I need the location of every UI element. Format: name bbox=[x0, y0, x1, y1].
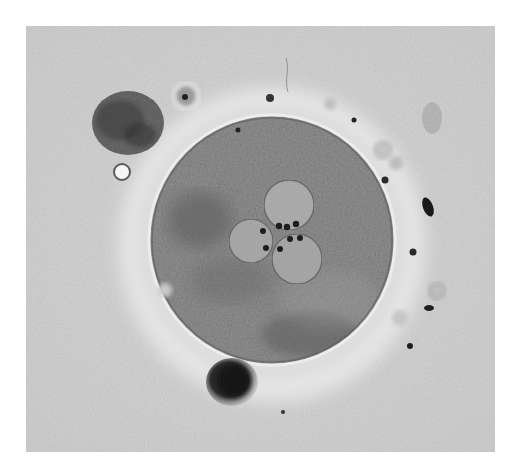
sperm-cell bbox=[410, 249, 417, 256]
corona-cell bbox=[389, 156, 403, 170]
corona-cell bbox=[158, 283, 172, 297]
pronucleus bbox=[229, 219, 273, 263]
sperm-cell bbox=[266, 94, 274, 102]
pronucleus bbox=[264, 180, 314, 230]
sperm-cell bbox=[424, 305, 434, 311]
corona-cell bbox=[392, 310, 408, 326]
debris-speckle bbox=[422, 102, 442, 134]
sperm-cell bbox=[281, 410, 285, 414]
sperm-cell bbox=[382, 177, 389, 184]
polar-body-core bbox=[220, 365, 250, 397]
nucleolus bbox=[287, 236, 293, 242]
sperm-cell bbox=[352, 118, 357, 123]
corona-cell bbox=[324, 98, 336, 110]
corona-cell bbox=[374, 141, 392, 159]
nucleolus bbox=[277, 246, 283, 252]
debris-vesicle-core bbox=[182, 94, 188, 100]
nucleolus bbox=[260, 228, 266, 234]
nucleolus bbox=[284, 224, 290, 230]
nucleolus bbox=[293, 221, 299, 227]
sperm-cell bbox=[236, 128, 241, 133]
nucleolus bbox=[263, 245, 269, 251]
cytoplasm-dark-region bbox=[190, 258, 270, 302]
nucleolus bbox=[297, 235, 303, 241]
sperm-cell bbox=[407, 343, 413, 349]
pronucleus bbox=[272, 234, 322, 284]
corona-cell bbox=[429, 283, 445, 299]
micrograph bbox=[0, 0, 520, 476]
cytoplasm-dark-region bbox=[168, 192, 232, 248]
nucleolus bbox=[276, 223, 282, 229]
